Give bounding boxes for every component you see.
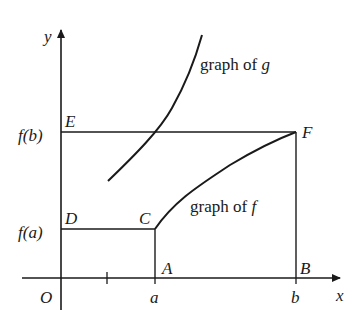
diagram: y x O a b f(a) f(b) A B C D E F graph of… bbox=[0, 0, 363, 327]
y-axis-label: y bbox=[42, 27, 52, 46]
origin-label: O bbox=[40, 288, 52, 307]
graph-of-f-label: graph of f bbox=[190, 197, 258, 216]
point-label-D: D bbox=[64, 209, 78, 228]
point-label-B: B bbox=[300, 259, 311, 278]
point-label-C: C bbox=[139, 209, 151, 228]
point-label-A: A bbox=[161, 259, 173, 278]
point-label-F: F bbox=[301, 123, 313, 142]
y-tick-label-fb: f(b) bbox=[18, 126, 43, 145]
x-tick-label-a: a bbox=[150, 288, 159, 307]
x-tick-label-b: b bbox=[291, 288, 300, 307]
graph-of-g-curve bbox=[108, 35, 202, 181]
x-axis-label: x bbox=[335, 286, 344, 305]
point-label-E: E bbox=[64, 112, 76, 131]
graph-of-g-label: graph of g bbox=[200, 55, 270, 74]
y-tick-label-fa: f(a) bbox=[18, 223, 43, 242]
